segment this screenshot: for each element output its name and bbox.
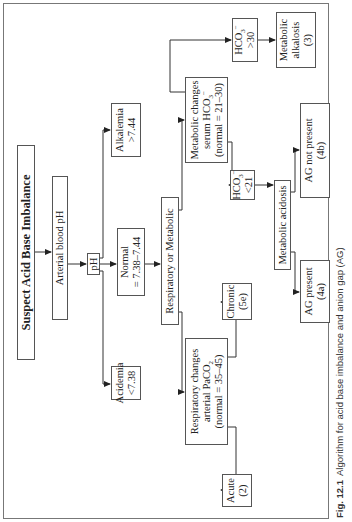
node-label: Chronic xyxy=(225,285,237,319)
caption-label: Fig. 12.1 xyxy=(334,480,345,518)
node-respiratory-or-metabolic: Respiratory or Metabolic xyxy=(161,197,179,325)
node-subtitle: serum HCO3− xyxy=(201,91,213,149)
node-label: pH xyxy=(88,258,100,271)
flowchart-diagram: Suspect Acid Base Imbalance Arterial blo… xyxy=(0,0,352,522)
node-label-2: alkalosis xyxy=(290,22,302,59)
node-ag-not-present: AG not present (4b) xyxy=(300,103,330,198)
node-ph: pH xyxy=(87,253,100,275)
figure-caption: Fig. 12.1Algorithm for acid base imbalan… xyxy=(334,247,345,518)
node-normal: Normal = 7.38–7.44 xyxy=(117,228,145,296)
node-label: Arterial blood pH xyxy=(54,211,66,286)
node-alkalemia: Alkalemia >7.44 xyxy=(111,103,141,157)
node-label: Normal xyxy=(119,246,131,278)
node-normal-range: (normal = 21–30) xyxy=(213,83,225,157)
node-threshold: >30 xyxy=(245,32,257,48)
node-label: AG not present xyxy=(303,118,315,182)
node-threshold: >7.44 xyxy=(126,118,138,142)
node-label: Alkalemia xyxy=(114,108,126,152)
node-subtitle: arterial PaCO2 xyxy=(201,361,213,422)
node-respiratory-changes: Respiratory changes arterial PaCO2 (norm… xyxy=(185,338,228,445)
node-label: HCO3− xyxy=(231,170,243,200)
node-label: Metabolic xyxy=(278,19,290,62)
node-label: HCO3− xyxy=(233,25,245,55)
node-ref: (3) xyxy=(302,34,314,46)
node-metabolic-acidosis: Metabolic acidosis xyxy=(274,180,291,270)
node-ag-present: AG present (4a) xyxy=(300,260,330,323)
node-acute: Acute (2) xyxy=(222,474,252,507)
node-hco3-high: HCO3− >30 xyxy=(232,18,258,62)
caption-text: Algorithm for acid base imbalance and an… xyxy=(334,247,345,476)
diagram-title: Suspect Acid Base Imbalance xyxy=(20,175,32,331)
node-label: Metabolic acidosis xyxy=(277,185,289,264)
node-threshold: <21 xyxy=(243,177,255,193)
node-normal-range: (normal = 35–45) xyxy=(213,354,225,428)
node-ref: (5e) xyxy=(237,293,249,310)
node-arterial-blood-ph: Arterial blood pH xyxy=(52,176,68,320)
node-label: Acidemia xyxy=(114,363,126,404)
node-metabolic-changes: Metabolic changes serum HCO3− (normal = … xyxy=(185,77,228,163)
node-ref: (4a) xyxy=(315,283,327,300)
node-threshold: = 7.38–7.44 xyxy=(131,237,143,288)
node-hco3-low: HCO3− <21 xyxy=(230,170,255,200)
title-box: Suspect Acid Base Imbalance xyxy=(17,145,35,360)
node-label: Acute xyxy=(225,478,237,503)
node-acidemia: Acidemia <7.38 xyxy=(111,366,141,400)
node-label: Respiratory changes xyxy=(189,349,201,434)
node-label: AG present xyxy=(303,267,315,315)
node-ref: (2) xyxy=(237,484,249,496)
node-metabolic-alkalosis: Metabolic alkalosis (3) xyxy=(276,12,316,68)
node-chronic: Chronic (5e) xyxy=(222,283,252,320)
node-label: Respiratory or Metabolic xyxy=(164,208,176,314)
node-threshold: <7.38 xyxy=(126,371,138,395)
node-ref: (4b) xyxy=(315,142,327,160)
